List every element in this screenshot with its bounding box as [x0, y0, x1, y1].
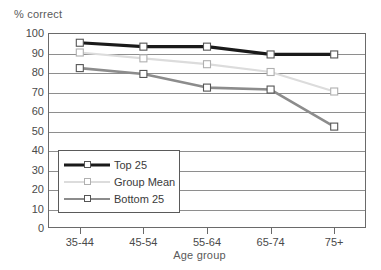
data-point-marker [204, 61, 211, 68]
y-axis-ticks: 0102030405060708090100 [0, 33, 44, 228]
x-axis-tick-mark [143, 228, 144, 234]
data-point-marker [204, 43, 211, 50]
y-axis-tick-label: 20 [4, 183, 44, 195]
x-axis-tick-label: 35-44 [66, 236, 94, 248]
y-axis-tick-label: 90 [4, 47, 44, 59]
y-axis-tick-label: 0 [4, 222, 44, 234]
series-line [80, 68, 334, 127]
x-axis-title: Age group [0, 249, 381, 261]
x-axis-tick-label: 75+ [325, 236, 344, 248]
data-point-marker [76, 49, 83, 56]
legend-item: Group Mean [64, 173, 173, 190]
data-point-marker [140, 43, 147, 50]
data-point-marker [331, 88, 338, 95]
chart-legend: Top 25Group MeanBottom 25 [58, 150, 180, 213]
x-axis-tick-mark [207, 228, 208, 234]
y-axis-tick-label: 100 [4, 27, 44, 39]
data-point-marker [267, 51, 274, 58]
x-axis-tick-mark [80, 228, 81, 234]
data-point-marker [204, 84, 211, 91]
y-axis-tick-label: 10 [4, 203, 44, 215]
series-bottom-25 [80, 68, 334, 127]
chart-container: % correct 0102030405060708090100 35-4445… [0, 0, 381, 270]
data-point-marker [267, 86, 274, 93]
y-axis-title: % correct [14, 8, 62, 20]
y-axis-tick-label: 50 [4, 125, 44, 137]
legend-label: Bottom 25 [110, 193, 164, 205]
legend-marker [84, 161, 91, 168]
data-point-marker [76, 39, 83, 46]
data-point-marker [140, 70, 147, 77]
data-point-marker [267, 69, 274, 76]
markers-bottom-25 [76, 65, 337, 131]
legend-marker [84, 195, 91, 202]
legend-item: Top 25 [64, 156, 173, 173]
legend-label: Top 25 [110, 159, 147, 171]
x-axis-title-text: Age group [173, 249, 226, 261]
x-axis-tick-label: 65-74 [257, 236, 285, 248]
legend-marker [84, 178, 91, 185]
legend-key-swatch [64, 158, 110, 172]
x-axis-tick-label: 45-54 [129, 236, 157, 248]
legend-key-swatch [64, 175, 110, 189]
data-point-marker [331, 123, 338, 130]
y-axis-tick-label: 60 [4, 105, 44, 117]
y-axis-tick-label: 30 [4, 164, 44, 176]
legend-label: Group Mean [110, 176, 175, 188]
y-axis-tick-label: 70 [4, 86, 44, 98]
y-axis-tick-label: 80 [4, 66, 44, 78]
x-axis-tick-mark [334, 228, 335, 234]
data-point-marker [140, 55, 147, 62]
data-point-marker [331, 51, 338, 58]
legend-key-swatch [64, 192, 110, 206]
data-point-marker [76, 65, 83, 72]
y-axis-tick-label: 40 [4, 144, 44, 156]
x-axis-tick-label: 55-64 [193, 236, 221, 248]
x-axis-tick-mark [271, 228, 272, 234]
legend-item: Bottom 25 [64, 190, 173, 207]
